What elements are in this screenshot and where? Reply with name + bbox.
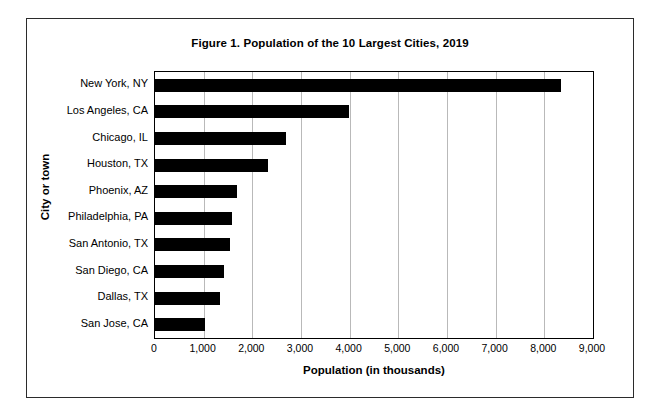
- bar: [155, 265, 224, 278]
- category-label: Los Angeles, CA: [67, 104, 148, 117]
- category-label: San Jose, CA: [81, 317, 148, 330]
- category-label: Dallas, TX: [97, 290, 148, 303]
- gridline: [496, 72, 497, 338]
- x-tick-label: 3,000: [287, 342, 313, 354]
- x-axis-title: Population (in thousands): [154, 364, 594, 376]
- category-label: Houston, TX: [87, 157, 148, 170]
- category-label: Phoenix, AZ: [89, 184, 148, 197]
- x-tick-label: 1,000: [190, 342, 216, 354]
- x-axis-tick-labels: 01,0002,0003,0004,0005,0006,0007,0008,00…: [154, 342, 594, 358]
- figure-frame: Figure 1. Population of the 10 Largest C…: [26, 18, 634, 398]
- bar: [155, 105, 349, 118]
- category-label: San Antonio, TX: [69, 237, 148, 250]
- category-label: Chicago, IL: [92, 131, 148, 144]
- category-label: New York, NY: [80, 77, 148, 90]
- chart-title: Figure 1. Population of the 10 Largest C…: [27, 37, 633, 49]
- bar: [155, 159, 268, 172]
- bar: [155, 79, 561, 92]
- x-tick-label: 9,000: [579, 342, 605, 354]
- x-tick-label: 2,000: [238, 342, 264, 354]
- gridline: [350, 72, 351, 338]
- bar: [155, 212, 232, 225]
- category-label: San Diego, CA: [75, 264, 148, 277]
- bar: [155, 132, 286, 145]
- gridline: [398, 72, 399, 338]
- plot-area: [154, 71, 594, 339]
- category-label: Philadelphia, PA: [68, 210, 148, 223]
- x-tick-label: 6,000: [433, 342, 459, 354]
- category-axis-labels: New York, NYLos Angeles, CAChicago, ILHo…: [27, 71, 148, 339]
- x-tick-label: 7,000: [482, 342, 508, 354]
- gridline: [544, 72, 545, 338]
- bar: [155, 292, 220, 305]
- x-tick-label: 5,000: [384, 342, 410, 354]
- bar: [155, 238, 230, 251]
- x-tick-label: 4,000: [336, 342, 362, 354]
- gridline: [447, 72, 448, 338]
- x-tick-label: 0: [151, 342, 157, 354]
- x-tick-label: 8,000: [530, 342, 556, 354]
- bar: [155, 318, 205, 331]
- bar: [155, 185, 237, 198]
